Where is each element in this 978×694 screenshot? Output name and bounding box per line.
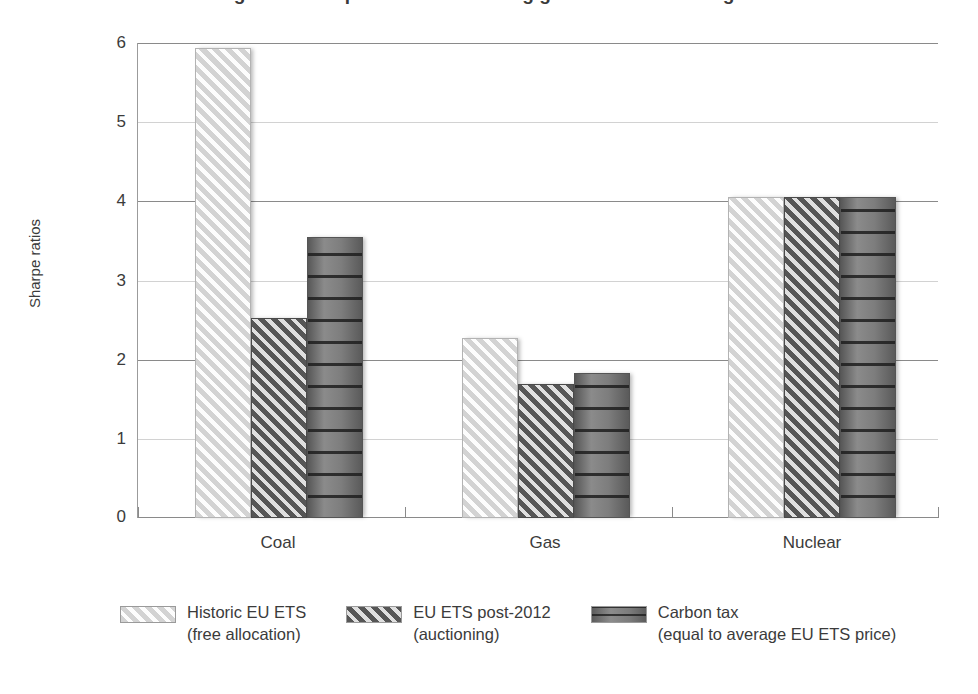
- legend-item-carbon-tax: Carbon tax (equal to average EU ETS pric…: [591, 602, 896, 646]
- bar-nuclear-historic-eu-ets: [728, 197, 784, 518]
- bar-nuclear-carbon-tax: [840, 197, 896, 518]
- x-tick-mark-end: [938, 507, 939, 518]
- gridline-6: [138, 43, 938, 44]
- x-tick-mark-1: [405, 507, 406, 518]
- bar-coal-historic-eu-ets: [195, 48, 251, 518]
- y-tick-label-2: 2: [86, 350, 126, 370]
- x-category-label-gas: Gas: [529, 533, 560, 553]
- y-tick-label-0: 0: [86, 507, 126, 527]
- x-tick-mark-2: [672, 507, 673, 518]
- bar-nuclear-eu-ets-post-2012: [784, 197, 840, 518]
- legend-label-line2: (free allocation): [187, 624, 306, 646]
- legend-swatch-eu-ets-post-2012-icon: [346, 606, 402, 623]
- legend-label-line2: (auctioning): [413, 624, 551, 646]
- bar-gas-carbon-tax: [574, 373, 630, 518]
- x-category-label-coal: Coal: [261, 533, 296, 553]
- chart-title: Figure 3. Sharpe ratios for existing gen…: [0, 0, 978, 5]
- chart-legend: Historic EU ETS (free allocation) EU ETS…: [120, 602, 960, 646]
- y-tick-label-4: 4: [86, 191, 126, 211]
- legend-swatch-historic-eu-ets-icon: [120, 606, 176, 623]
- y-axis-title: Sharpe ratios: [26, 184, 43, 344]
- y-tick-label-1: 1: [86, 429, 126, 449]
- x-category-label-nuclear: Nuclear: [783, 533, 842, 553]
- plot-area: 6 5 4 3 2 1 0: [137, 43, 938, 518]
- bar-gas-eu-ets-post-2012: [518, 384, 574, 518]
- bar-coal-carbon-tax: [307, 237, 363, 518]
- legend-item-historic-eu-ets: Historic EU ETS (free allocation): [120, 602, 306, 646]
- legend-label-line2: (equal to average EU ETS price): [658, 624, 896, 646]
- legend-label-eu-ets-post-2012: EU ETS post-2012 (auctioning): [413, 602, 551, 646]
- legend-item-eu-ets-post-2012: EU ETS post-2012 (auctioning): [346, 602, 551, 646]
- y-tick-label-6: 6: [86, 33, 126, 53]
- legend-swatch-carbon-tax-icon: [591, 606, 647, 623]
- x-tick-mark-start: [138, 507, 139, 518]
- legend-label-line1: Historic EU ETS: [187, 603, 306, 621]
- legend-label-line1: Carbon tax: [658, 603, 739, 621]
- legend-label-carbon-tax: Carbon tax (equal to average EU ETS pric…: [658, 602, 896, 646]
- legend-label-historic-eu-ets: Historic EU ETS (free allocation): [187, 602, 306, 646]
- legend-label-line1: EU ETS post-2012: [413, 603, 551, 621]
- y-tick-label-5: 5: [86, 112, 126, 132]
- bar-chart-figure: Figure 3. Sharpe ratios for existing gen…: [0, 0, 978, 694]
- bar-coal-eu-ets-post-2012: [251, 318, 307, 518]
- gridline-5: [138, 122, 938, 123]
- y-tick-label-3: 3: [86, 271, 126, 291]
- bar-gas-historic-eu-ets: [462, 338, 518, 518]
